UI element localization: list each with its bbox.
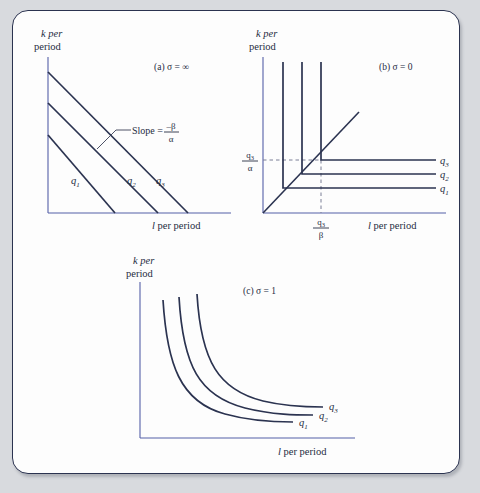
panel-b-y-axis-label-line1: k per	[256, 28, 278, 39]
panel-a-isoquant-q2	[48, 103, 158, 213]
panel-c-y-axis-label-line1: k per	[133, 255, 155, 266]
panel-b-x-axis-label: l per period	[368, 220, 417, 231]
panel-b-label-q2: q2	[440, 169, 449, 183]
figure-card: k per period (a) σ = ∞ Slope = –β	[12, 10, 460, 474]
panel-b-y-tick-numerator: q3	[246, 150, 254, 161]
panel-c-label-q2: q2	[319, 410, 328, 424]
panel-b-y-axis-label-line2: period	[249, 41, 277, 52]
panel-a: k per period (a) σ = ∞ Slope = –β	[19, 17, 241, 245]
panel-b-isoquant-q2	[302, 62, 436, 174]
panel-b-label-q1: q1	[440, 183, 449, 197]
panel-c-isoquant-q3	[197, 294, 323, 407]
panel-b: k per period (b) σ = 0 q3	[231, 17, 455, 245]
panel-a-isoquant-q3	[48, 72, 188, 213]
panel-b-x-tick-denominator: β	[319, 230, 324, 240]
panel-b-isoquant-q3	[321, 62, 436, 160]
panel-b-y-tick-denominator: α	[248, 163, 253, 173]
panel-a-x-axis-label: l per period	[152, 220, 201, 231]
figure-root: k per period (a) σ = ∞ Slope = –β	[0, 0, 480, 493]
panel-b-expansion-ray	[263, 112, 359, 213]
panel-c-label-q1: q1	[299, 417, 308, 431]
panel-a-slope-numerator: –β	[165, 121, 176, 131]
panel-a-y-axis-label-line1: k per	[41, 28, 63, 39]
panel-a-slope-label: Slope =	[132, 125, 163, 136]
panel-c: k per period (c) σ = 1 q3 q2 q1 l per p	[105, 244, 375, 469]
panel-a-title: (a) σ = ∞	[154, 62, 189, 73]
panel-c-label-q3: q3	[329, 401, 338, 415]
panel-b-title: (b) σ = 0	[379, 62, 413, 73]
panel-a-label-q1: q1	[71, 175, 80, 189]
panel-b-label-q3: q3	[440, 155, 449, 169]
panel-a-label-q2: q2	[127, 175, 136, 189]
panel-a-label-q3: q3	[156, 175, 165, 189]
panel-a-slope-denominator: α	[169, 134, 174, 144]
panel-a-isoquant-q1	[48, 135, 115, 213]
panel-b-x-tick-numerator: q3	[317, 217, 325, 228]
panel-c-y-axis-label-line2: period	[126, 268, 154, 279]
panel-a-y-axis-label-line2: period	[34, 41, 62, 52]
panel-b-isoquant-q1	[283, 62, 436, 188]
panel-c-title: (c) σ = 1	[243, 286, 276, 297]
panel-c-x-axis-label: l per period	[278, 446, 327, 457]
